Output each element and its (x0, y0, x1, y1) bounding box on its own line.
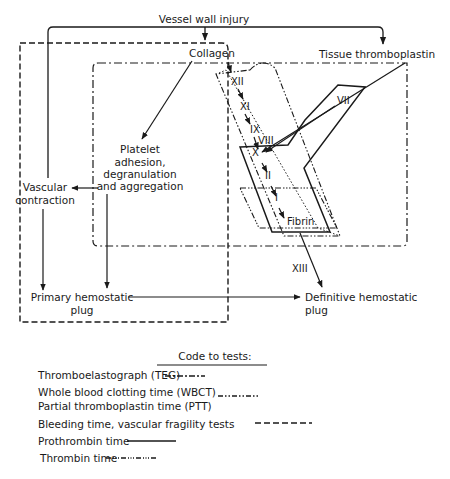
prothrombin-box (240, 85, 365, 232)
legend-item-bleeding: Bleeding time, vascular fragility tests (38, 418, 234, 430)
factor-i-label: I (275, 192, 278, 203)
factor-ix-label: IX (250, 124, 260, 135)
platelet-label-2: adhesion, (114, 156, 165, 168)
fibrin-to-definitive-arrow (300, 233, 322, 287)
primary-plug-label-2: plug (71, 304, 94, 316)
vascular-contraction-label-2: contraction (15, 194, 75, 206)
platelet-label-3: degranulation (103, 168, 176, 180)
hemostasis-diagram: Vessel wall injury Collagen Tissue throm… (0, 0, 450, 479)
legend-item-ptt: Partial thromboplastin time (PTT) (38, 400, 212, 412)
primary-plug-label-1: Primary hemostatic (31, 291, 134, 303)
factor-xi-label: XI (240, 101, 250, 112)
vascular-contraction-label-1: Vascular (23, 181, 68, 193)
legend-item-thrombin: Thrombin time (39, 452, 117, 464)
factor-xii-label: XII (231, 76, 244, 87)
legend: Code to tests: Thromboelastograph (TEG) … (37, 350, 312, 464)
legend-title: Code to tests: (178, 350, 251, 362)
legend-item-prothrombin: Prothrombin time (38, 435, 129, 447)
factor-x-label: X (252, 147, 259, 158)
factor-viii-label: VIII (258, 135, 274, 146)
platelet-label-4: and aggregation (97, 180, 184, 192)
i-to-fibrin-arrow (279, 208, 284, 218)
legend-item-wbct: Whole blood clotting time (WBCT) (38, 386, 216, 398)
factor-xiii-label: XIII (292, 263, 308, 274)
xi-to-ix-arrow (245, 114, 250, 124)
fibrin-label: Fibrin (287, 216, 314, 227)
tissue-thromboplastin-label: Tissue thromboplastin (318, 48, 435, 60)
collagen-label: Collagen (189, 47, 235, 59)
definitive-plug-label-2: plug (305, 304, 328, 316)
vii-to-x-arrow (266, 106, 335, 152)
definitive-plug-label-1: Definitive hemostatic (305, 291, 418, 303)
xii-to-xi-arrow (238, 89, 243, 99)
factor-ii-label: II (265, 170, 271, 181)
legend-item-teg: Thromboelastograph (TEG) (37, 369, 180, 381)
platelet-label-1: Platelet (120, 143, 160, 155)
factor-vii-label: VII (337, 95, 350, 106)
vessel-wall-injury-label: Vessel wall injury (159, 13, 249, 25)
collagen-to-platelet-arrow (142, 61, 192, 139)
